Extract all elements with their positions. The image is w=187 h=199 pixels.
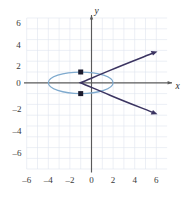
y-tick-label: –6 (12, 148, 23, 158)
intersection-point-upper (78, 70, 83, 75)
y-tick-label: 6 (16, 18, 21, 28)
coordinate-plane-figure: y x –6 –4 –2 0 2 4 6 6 4 2 0 –2 –4 (0, 0, 187, 199)
y-tick-labels: 6 4 2 0 –2 –4 –6 (12, 18, 23, 158)
grid-lines (27, 18, 167, 169)
y-tick-label: –2 (12, 104, 22, 114)
x-tick-label: 6 (154, 175, 159, 185)
intersection-point-lower (78, 91, 83, 96)
y-axis-arrowhead (90, 15, 93, 19)
x-tick-label: 4 (132, 175, 137, 185)
y-tick-label: 2 (16, 61, 21, 71)
x-tick-label: –4 (43, 175, 54, 185)
x-tick-label: –6 (21, 175, 32, 185)
y-tick-label: 4 (16, 40, 21, 50)
y-axis-label: y (93, 6, 99, 16)
x-axis-label: x (174, 81, 180, 91)
graph-canvas: y x –6 –4 –2 0 2 4 6 6 4 2 0 –2 –4 (0, 0, 187, 199)
y-tick-label: 0 (16, 78, 21, 88)
x-tick-labels: –6 –4 –2 0 2 4 6 (21, 175, 159, 185)
x-tick-label: 2 (111, 175, 116, 185)
x-tick-label: 0 (89, 175, 94, 185)
x-tick-label: –2 (64, 175, 74, 185)
y-tick-label: –4 (12, 126, 23, 136)
x-axis-arrowhead (168, 81, 172, 84)
